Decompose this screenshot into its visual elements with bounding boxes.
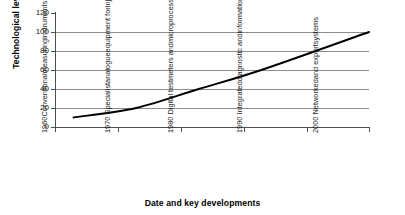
x-category-line: measuring xyxy=(41,39,50,74)
x-category-lines-1980: 1980 Digital testmeters andmicroprocesso… xyxy=(167,0,176,133)
x-tick-mark-0 xyxy=(55,128,56,132)
x-category-line: diagnostic and xyxy=(236,34,245,82)
x-category-line: injection and xyxy=(104,0,113,7)
x-category-lines-2000: 2000 Networkedand expertsystems xyxy=(312,17,321,133)
x-category-lines-1970: 1970 Specialistanalogueequipment forinje… xyxy=(104,0,113,133)
x-category-line: 1990 Integrated xyxy=(236,81,245,133)
x-category-line: equipment for xyxy=(104,7,113,52)
x-category-line: analogue xyxy=(104,52,113,82)
x-category-line: 1970 Specialist xyxy=(104,83,113,133)
x-category-line: 2000 Networked xyxy=(312,79,321,133)
x-category-line: meters and xyxy=(167,43,176,80)
x-category-lines-1960: 1960Conventionalmeasuringinstruments xyxy=(41,1,50,133)
x-category-line: systems xyxy=(312,17,321,44)
chart-container: Technological level 120 100 80 60 40 20 … xyxy=(0,0,405,215)
x-tick-mark-5 xyxy=(369,128,370,132)
x-category-line: and expert xyxy=(312,44,321,79)
x-tick-mark-2 xyxy=(181,128,182,132)
x-category-line: information xyxy=(236,0,245,34)
x-tick-mark-4 xyxy=(307,128,308,132)
x-axis-title: Date and key developments xyxy=(0,198,405,208)
x-category-lines-1990: 1990 Integrateddiagnostic andinformation… xyxy=(236,0,245,133)
y-axis-title: Technological level xyxy=(11,0,21,89)
x-category-line: 1960 xyxy=(41,117,50,133)
x-tick-mark-1 xyxy=(118,128,119,132)
x-category-line: 1980 Digital test xyxy=(167,80,176,133)
x-category-line: microprocessor xyxy=(167,0,176,43)
x-category-line: Conventional xyxy=(41,73,50,116)
x-category-line: instruments xyxy=(41,1,50,39)
